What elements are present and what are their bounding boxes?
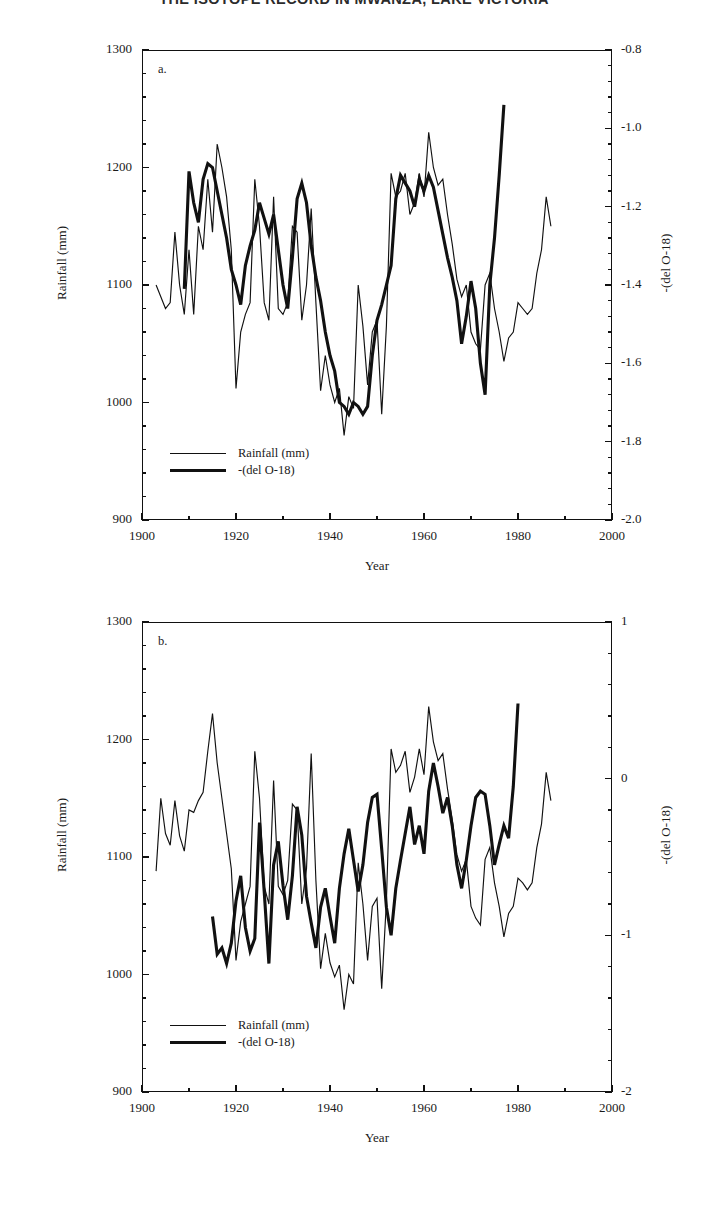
y-tick-major [142,49,149,51]
x-axis-tick-label: 2000 [582,1100,642,1116]
y-tick-major-right [605,128,612,130]
x-axis-tick-label: 2000 [582,528,642,544]
y-tick-minor-right [608,378,612,379]
y-tick-minor-right [608,997,612,998]
y-tick-major [142,402,149,404]
series-line-isotope [184,105,504,414]
x-axis-title-b: Year [142,1130,612,1146]
y-tick-minor-right [608,872,612,873]
y-axis-tick-label-right: -1.6 [621,354,642,370]
y-tick-minor-right [608,81,612,82]
legend-label: -(del O-18) [238,463,295,478]
y-tick-minor-right [608,394,612,395]
y-tick-minor [142,645,146,646]
x-axis-tick-label: 1940 [300,1100,360,1116]
y-axis-tick-label-right: -2.0 [621,511,642,527]
y-tick-major-right [605,49,612,51]
y-tick-minor-right [608,903,612,904]
legend-label: -(del O-18) [238,1035,295,1050]
y-tick-minor-right [608,472,612,473]
y-axis-tick-label-right: 0 [621,770,628,786]
y-tick-minor [142,331,146,332]
x-tick-major [235,513,237,520]
y-tick-major-right [605,621,612,623]
x-tick-major [517,513,519,520]
y-axis-tick-label-right: -2 [621,1083,632,1099]
x-tick-major [329,1085,331,1092]
x-axis-tick-label: 1960 [394,528,454,544]
y-tick-minor [142,1021,146,1022]
y-tick-minor-right [608,841,612,842]
x-axis-tick-label: 1920 [206,528,266,544]
x-tick-minor [470,516,471,520]
x-tick-minor [188,1088,189,1092]
x-tick-major [423,513,425,520]
legend-label: Rainfall (mm) [238,1018,309,1033]
y-tick-minor [142,355,146,356]
y-axis-tick-label-right: -0.8 [621,41,642,57]
x-axis-tick-label: 1900 [112,528,172,544]
y-tick-major-right [605,778,612,780]
x-tick-minor [470,1088,471,1092]
y-axis-tick-label-right: -1.2 [621,198,642,214]
series-line-isotope [213,703,519,963]
x-axis-tick-label: 1980 [488,528,548,544]
x-tick-major [141,1085,143,1092]
y-axis-tick-label-right: -1.8 [621,433,642,449]
y-tick-minor [142,668,146,669]
legend-b: Rainfall (mm)-(del O-18) [170,1017,309,1051]
y-tick-minor-right [608,1029,612,1030]
x-axis-tick-label: 1960 [394,1100,454,1116]
y-tick-minor-right [608,159,612,160]
y-tick-minor [142,496,146,497]
y-tick-minor [142,190,146,191]
y-axis-tick-label-left: 1100 [60,276,132,292]
y-tick-minor-right [608,747,612,748]
y-axis-tick-label-left: 1000 [60,394,132,410]
y-axis-tick-label-left: 1200 [60,159,132,175]
x-axis-tick-label: 1940 [300,528,360,544]
y-axis-tick-label-left: 900 [60,511,132,527]
y-axis-tick-label-left: 1100 [60,848,132,864]
y-tick-minor-right [608,488,612,489]
x-tick-major [141,513,143,520]
y-tick-minor-right [608,653,612,654]
y-tick-major-right [605,284,612,286]
x-axis-tick-label: 1920 [206,1100,266,1116]
y-tick-minor-right [608,253,612,254]
legend-label: Rainfall (mm) [238,446,309,461]
x-tick-minor [282,1088,283,1092]
x-tick-major [329,513,331,520]
y-axis-tick-label-left: 1300 [60,613,132,629]
y-tick-minor-right [608,237,612,238]
y-tick-minor [142,880,146,881]
y-tick-minor [142,425,146,426]
y-axis-title-left-b: Rainfall (mm) [54,765,70,905]
chart-panel-a: a. 9001000110012001300-2.0-1.8-1.6-1.4-1… [0,40,708,540]
y-tick-minor [142,1068,146,1069]
legend-swatch-isotope [170,469,226,472]
y-tick-major [142,519,149,521]
x-tick-minor [376,516,377,520]
legend-a: Rainfall (mm)-(del O-18) [170,445,309,479]
y-tick-minor-right [608,966,612,967]
y-tick-minor [142,786,146,787]
x-tick-minor [282,516,283,520]
y-tick-minor-right [608,96,612,97]
x-axis-tick-label: 1900 [112,1100,172,1116]
y-tick-minor [142,927,146,928]
y-axis-title-right-b: -(del O-18) [658,765,674,905]
x-tick-major [517,1085,519,1092]
y-tick-minor-right [608,222,612,223]
legend-swatch-isotope [170,1041,226,1044]
y-tick-minor-right [608,410,612,411]
y-tick-minor [142,120,146,121]
y-tick-minor-right [608,715,612,716]
legend-item: -(del O-18) [170,1034,309,1051]
y-tick-minor-right [608,809,612,810]
y-tick-major-right [605,206,612,208]
y-axis-tick-label-left: 1300 [60,41,132,57]
y-tick-minor-right [608,175,612,176]
y-axis-tick-label-left: 900 [60,1083,132,1099]
y-tick-minor-right [608,65,612,66]
